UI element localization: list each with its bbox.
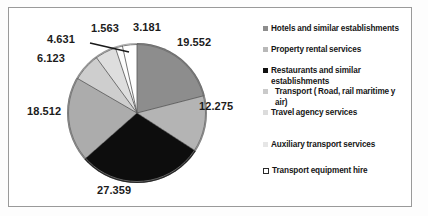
data-label-travel-agency: 6.123 [37, 52, 65, 64]
pie-plot-area: 19.552 12.275 27.359 18.512 6.123 4.631 … [9, 8, 257, 206]
legend-swatch-icon [263, 168, 269, 174]
data-label-auxiliary: 4.631 [47, 33, 75, 45]
pie-chart [67, 43, 207, 183]
data-label-extra: 3.181 [133, 21, 161, 33]
legend-item-restaurants[interactable]: Restaurants and similar establishments [263, 66, 409, 88]
legend-label: Property rental services [271, 45, 361, 56]
data-label-property-rental: 12.275 [199, 100, 233, 112]
legend-label: Restaurants and similar establishments [271, 66, 409, 88]
legend-swatch-icon [263, 68, 268, 73]
legend-item-equipment-hire[interactable]: Transport equipment hire [263, 166, 409, 177]
legend-swatch-icon [263, 47, 268, 52]
data-label-restaurants: 27.359 [97, 184, 131, 196]
legend-item-travel-agency[interactable]: Travel agency services [263, 108, 409, 119]
legend-swatch-icon [263, 89, 268, 94]
legend-item-property-rental[interactable]: Property rental services [263, 45, 409, 56]
data-label-transport: 18.512 [27, 105, 61, 117]
legend-label: Transport equipment hire [272, 166, 368, 177]
legend-label: Auxiliary transport services [271, 140, 375, 151]
legend-label: Hotels and similar establishments [271, 24, 399, 35]
legend-item-auxiliary-transport[interactable]: Auxiliary transport services [263, 140, 409, 151]
data-label-hotels: 19.552 [177, 36, 211, 48]
chart-screenshot: 19.552 12.275 27.359 18.512 6.123 4.631 … [0, 0, 428, 216]
legend-swatch-icon [263, 110, 268, 115]
leader-line-icon [89, 41, 131, 53]
pie-slices[interactable] [67, 43, 207, 183]
chart-legend: Hotels and similar establishments Proper… [257, 14, 407, 202]
legend-item-hotels[interactable]: Hotels and similar establishments [263, 24, 409, 35]
chart-frame: 19.552 12.275 27.359 18.512 6.123 4.631 … [8, 7, 412, 207]
legend-item-transport[interactable]: Transport ( Road, rail maritime y air) [263, 87, 409, 109]
data-label-equipment-hire: 1.563 [91, 22, 119, 34]
legend-swatch-icon [263, 142, 268, 147]
legend-label: Transport ( Road, rail maritime y air) [271, 87, 409, 109]
legend-swatch-icon [263, 26, 268, 31]
legend-label: Travel agency services [271, 108, 357, 119]
